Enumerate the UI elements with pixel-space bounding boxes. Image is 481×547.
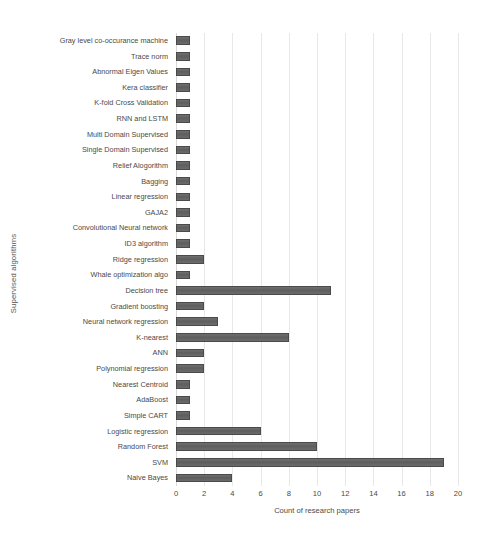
bar[interactable]	[176, 161, 190, 170]
bar-row	[176, 345, 458, 361]
y-axis-tick-label: Gradient boosting	[110, 299, 168, 315]
bar-row	[176, 220, 458, 236]
bar[interactable]	[176, 396, 190, 405]
x-axis-tick-label: 4	[230, 489, 234, 498]
bar[interactable]	[176, 255, 204, 264]
y-axis-tick-label: Multi Domain Supervised	[87, 127, 168, 143]
bar-row	[176, 127, 458, 143]
bar[interactable]	[176, 442, 317, 451]
y-axis-tick-label: Naive Bayes	[127, 470, 168, 486]
x-axis-tick-label: 18	[426, 489, 434, 498]
y-axis-tick-label: Linear regression	[112, 189, 168, 205]
bar[interactable]	[176, 302, 204, 311]
y-axis-tick-label: Neural network regression	[83, 314, 168, 330]
bar-series	[176, 33, 458, 486]
y-axis-tick-label: Relief Alogorithm	[113, 158, 168, 174]
y-axis-tick-label: Ridge regression	[113, 252, 168, 268]
x-axis-tick-label: 10	[313, 489, 321, 498]
bar-row	[176, 408, 458, 424]
bar[interactable]	[176, 271, 190, 280]
gridline-20	[458, 33, 459, 486]
x-axis-tick-label: 0	[174, 489, 178, 498]
x-axis-title: Count of research papers	[176, 506, 458, 515]
y-axis-tick-label: Bagging	[141, 174, 168, 190]
bar-row	[176, 189, 458, 205]
bar[interactable]	[176, 317, 218, 326]
x-axis-tick-label: 6	[258, 489, 262, 498]
bar-row	[176, 95, 458, 111]
bar-row	[176, 174, 458, 190]
y-axis-tick-labels: Gray level co-occurance machineTrace nor…	[20, 33, 172, 486]
x-axis-tick-label: 2	[202, 489, 206, 498]
y-axis-tick-label: ID3 algorithm	[125, 236, 168, 252]
bar[interactable]	[176, 427, 261, 436]
bar-row	[176, 252, 458, 268]
y-axis-tick-label: Polynomial regression	[96, 361, 168, 377]
y-axis-tick-label: Random Forest	[118, 439, 168, 455]
bar-row	[176, 64, 458, 80]
bar[interactable]	[176, 286, 331, 295]
y-axis-tick-label: Trace norm	[131, 49, 168, 65]
y-axis-tick-label: SVM	[152, 455, 168, 471]
bar[interactable]	[176, 349, 204, 358]
bar[interactable]	[176, 208, 190, 217]
bar-row	[176, 142, 458, 158]
bar[interactable]	[176, 193, 190, 202]
bar-row	[176, 470, 458, 486]
bar-row	[176, 377, 458, 393]
bar[interactable]	[176, 52, 190, 61]
x-axis-tick-label: 12	[341, 489, 349, 498]
y-axis-tick-label: K-nearest	[136, 330, 168, 346]
bar-row	[176, 111, 458, 127]
x-axis-tick-labels: 02468101214161820	[176, 489, 458, 503]
bar[interactable]	[176, 36, 190, 45]
bar[interactable]	[176, 146, 190, 155]
y-axis-tick-label: Abnormal Eigen Values	[92, 64, 168, 80]
bar[interactable]	[176, 130, 190, 139]
y-axis-tick-label: Gray level co-occurance machine	[60, 33, 168, 49]
y-axis-tick-label: Kera classifier	[122, 80, 168, 96]
bar-row	[176, 439, 458, 455]
bar[interactable]	[176, 239, 190, 248]
plot-area	[176, 33, 458, 486]
bar-row	[176, 299, 458, 315]
bar-row	[176, 361, 458, 377]
y-axis-tick-label: ANN	[153, 345, 168, 361]
bar-row	[176, 283, 458, 299]
bar-row	[176, 33, 458, 49]
y-axis-tick-label: Single Domain Supervised	[82, 142, 168, 158]
y-axis-tick-label: Logistic regression	[107, 424, 168, 440]
bar-row	[176, 314, 458, 330]
bar[interactable]	[176, 224, 190, 233]
bar-row	[176, 80, 458, 96]
bar-chart: Supervised algorithms Gray level co-occu…	[0, 0, 481, 547]
bar-row	[176, 236, 458, 252]
bar[interactable]	[176, 68, 190, 77]
bar[interactable]	[176, 333, 289, 342]
bar-row	[176, 455, 458, 471]
bar-row	[176, 424, 458, 440]
x-axis-tick-label: 14	[369, 489, 377, 498]
y-axis-tick-label: Nearest Centroid	[113, 377, 168, 393]
y-axis-tick-label: K-fold Cross Validation	[94, 95, 168, 111]
y-axis-tick-label: RNN and LSTM	[117, 111, 169, 127]
y-axis-tick-label: Convolutional Neural network	[73, 220, 168, 236]
bar[interactable]	[176, 83, 190, 92]
bar[interactable]	[176, 458, 444, 467]
bar-row	[176, 267, 458, 283]
bar[interactable]	[176, 177, 190, 186]
bar[interactable]	[176, 474, 232, 483]
bar[interactable]	[176, 99, 190, 108]
y-axis-tick-label: Whale optimization algo	[91, 267, 168, 283]
y-axis-tick-label: Decision tree	[125, 283, 168, 299]
bar-row	[176, 158, 458, 174]
bar-row	[176, 392, 458, 408]
bar[interactable]	[176, 114, 190, 123]
bar[interactable]	[176, 380, 190, 389]
bar[interactable]	[176, 411, 190, 420]
bar[interactable]	[176, 364, 204, 373]
x-axis-tick-label: 16	[397, 489, 405, 498]
y-axis-tick-label: AdaBoost	[136, 392, 168, 408]
y-axis-tick-label: GAJA2	[145, 205, 168, 221]
bar-row	[176, 330, 458, 346]
